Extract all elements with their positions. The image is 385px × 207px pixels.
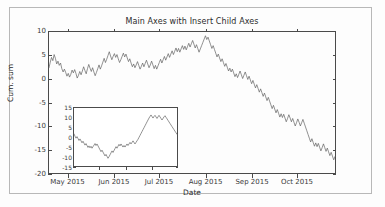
main-x-tick-mark xyxy=(297,174,298,178)
main-y-tick-label: -15 xyxy=(24,146,46,154)
inset-x-tick-mark xyxy=(99,167,100,170)
inset-y-tick-label: 10 xyxy=(54,114,72,121)
main-x-tick-mark xyxy=(159,174,160,178)
main-y-tick-label: -10 xyxy=(24,122,46,130)
inset-child-axes-plot-area xyxy=(73,107,178,167)
inset-data-line xyxy=(74,115,177,158)
inset-y-tick-label: 15 xyxy=(54,104,72,111)
chart-title: Main Axes with Insert Child Axes xyxy=(48,17,336,26)
main-x-tick-label: May 2015 xyxy=(50,178,85,186)
main-y-tick-label: 5 xyxy=(24,51,46,59)
main-y-tick-label: 10 xyxy=(24,27,46,35)
main-x-tick-labels: May 2015Jun 2015Jul 2015Aug 2015Sep 2015… xyxy=(48,178,336,190)
main-x-tick-mark xyxy=(68,174,69,178)
main-x-tick-mark xyxy=(206,174,207,178)
inset-y-tick-label: 0 xyxy=(54,134,72,141)
inset-y-tick-label: 5 xyxy=(54,124,72,131)
main-x-tick-label: Oct 2015 xyxy=(281,178,313,186)
main-y-tick-label: -20 xyxy=(24,170,46,178)
main-y-tick-label: -5 xyxy=(24,99,46,107)
main-x-tick-label: Jul 2015 xyxy=(145,178,174,186)
main-y-tick-labels: 1050-5-10-15-20 xyxy=(22,31,46,174)
main-x-tick-mark xyxy=(114,174,115,178)
main-x-tick-label: Jun 2015 xyxy=(99,178,130,186)
inset-series-svg xyxy=(74,108,177,166)
main-x-tick-label: Aug 2015 xyxy=(189,178,223,186)
inset-y-tick-labels: 151050-5-10-15 xyxy=(54,107,72,167)
y-axis-label: Cum. sum xyxy=(6,64,15,102)
main-x-tick-label: Sep 2015 xyxy=(235,178,268,186)
matplotlib-figure: Main Axes with Insert Child Axes Cum. su… xyxy=(0,0,385,207)
inset-x-tick-mark xyxy=(152,167,153,170)
inset-x-tick-marks xyxy=(73,167,178,170)
main-y-tick-label: 0 xyxy=(24,75,46,83)
main-x-tick-mark xyxy=(252,174,253,178)
inset-y-tick-label: -15 xyxy=(54,164,72,171)
inset-y-tick-label: -10 xyxy=(54,154,72,161)
inset-y-tick-label: -5 xyxy=(54,144,72,151)
inset-x-tick-mark xyxy=(126,167,127,170)
